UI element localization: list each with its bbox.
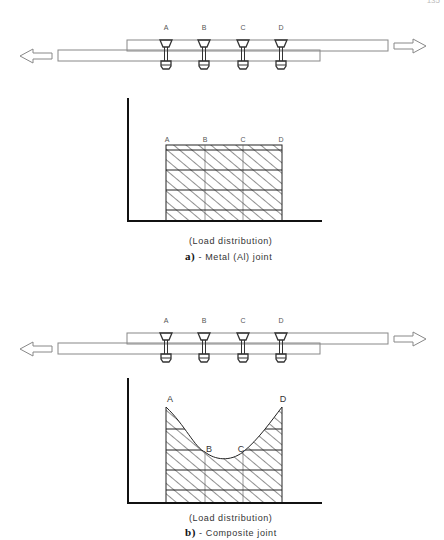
- joint-a: A B C D: [20, 24, 426, 69]
- bottom-plate: [58, 343, 320, 354]
- rivet-label-a: A: [164, 24, 169, 31]
- rivet-d: [275, 333, 287, 362]
- rivet-d: [275, 40, 287, 69]
- rivet-c: [237, 40, 249, 69]
- caption-a-text: - Metal (Al) joint: [195, 252, 272, 262]
- caption-b-line1: (Load distribution): [189, 513, 272, 523]
- load-chart-a: A B C D: [127, 98, 322, 222]
- rivet-c: [237, 333, 249, 362]
- rivet-label-c: C: [240, 317, 245, 324]
- caption-b-letter: b): [185, 526, 196, 538]
- right-arrow-icon: [394, 332, 426, 346]
- load-chart-b: A B C D: [127, 378, 322, 504]
- chart-label-d: D: [278, 136, 283, 143]
- top-plate: [127, 333, 388, 344]
- rivet-a: [160, 333, 172, 362]
- rivet-label-d: D: [278, 24, 283, 31]
- caption-a-letter: a): [185, 250, 195, 262]
- rivet-label-b: B: [202, 24, 207, 31]
- rivet-label-c: C: [240, 24, 245, 31]
- chart-label-d: D: [280, 394, 287, 404]
- rivet-label-a: A: [164, 317, 169, 324]
- joint-b: A B C D: [20, 317, 426, 362]
- rivet-b: [198, 333, 210, 362]
- rivet-label-d: D: [278, 317, 283, 324]
- chart-label-b: B: [203, 136, 208, 143]
- joint-diagrams: A B C D A B C D A B C D: [0, 0, 444, 540]
- chart-label-a: A: [167, 394, 173, 404]
- caption-b: b) - Composite joint: [185, 526, 277, 538]
- right-arrow-icon: [394, 39, 426, 53]
- chart-label-c: C: [238, 444, 245, 454]
- rivet-b: [198, 40, 210, 69]
- rivet-a: [160, 40, 172, 69]
- caption-a-line1: (Load distribution): [189, 236, 272, 246]
- rivet-label-b: B: [202, 317, 207, 324]
- caption-b-text: - Composite joint: [196, 528, 277, 538]
- chart-label-c: C: [240, 136, 245, 143]
- u-shaped-load-area: [166, 407, 282, 503]
- caption-a: a) - Metal (Al) joint: [185, 250, 272, 262]
- left-arrow-icon: [20, 342, 52, 356]
- chart-label-a: A: [165, 136, 170, 143]
- bottom-plate: [58, 50, 320, 61]
- chart-label-b: B: [206, 444, 212, 454]
- left-arrow-icon: [20, 49, 52, 63]
- top-plate: [127, 40, 388, 51]
